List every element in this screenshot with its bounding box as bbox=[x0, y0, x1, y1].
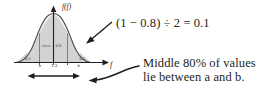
middle-annotation-line-2: lie between a and b. bbox=[143, 70, 256, 84]
formula-pointer-line bbox=[91, 22, 113, 40]
range-arrow-head-left bbox=[28, 73, 35, 79]
middle-annotation-line-1: Middle 80% of values bbox=[143, 56, 256, 70]
middle-pointer-arrowhead bbox=[89, 77, 98, 83]
right-tail-label: 0.1 bbox=[80, 56, 86, 61]
figure-container: Area = 0.8 0.1 0.1 a 1.3 b f(f) f (1 − 0… bbox=[0, 0, 271, 92]
area-label: Area = 0.8 bbox=[41, 43, 61, 48]
left-tail-label: 0.1 bbox=[25, 56, 31, 61]
middle-pointer-curve bbox=[96, 66, 139, 80]
middle-percent-annotation: Middle 80% of values lie between a and b… bbox=[143, 56, 256, 84]
range-arrow-head-right bbox=[73, 73, 80, 79]
y-axis-label: f(f) bbox=[62, 2, 71, 11]
x-tick-label-a: a bbox=[39, 63, 42, 68]
formula-annotation: (1 − 0.8) ÷ 2 = 0.1 bbox=[116, 16, 210, 30]
x-axis-label: f bbox=[110, 60, 112, 69]
x-axis-arrowhead bbox=[103, 60, 110, 66]
y-axis-arrowhead bbox=[51, 6, 57, 13]
x-tick-label-b: b bbox=[78, 63, 81, 68]
x-tick-label-mean: 1.3 bbox=[51, 63, 57, 68]
